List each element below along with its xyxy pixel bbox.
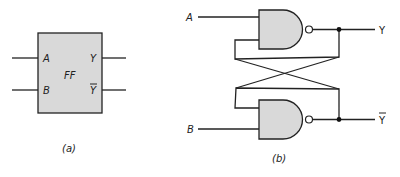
- caption-b: (b): [272, 153, 286, 164]
- nand-gate-bottom: [259, 100, 303, 139]
- output-ybar-label: Y: [90, 85, 97, 96]
- ff-label: FF: [64, 70, 76, 81]
- cross-wire-1: [235, 59, 339, 89]
- inversion-bubble-top: [306, 26, 313, 33]
- input-b-label: B: [43, 85, 50, 96]
- input-b-label-b: B: [187, 124, 194, 135]
- junction-dot-bottom: [337, 117, 342, 122]
- output-ybar-label-b: Y: [378, 115, 386, 126]
- cross-wire-2: [236, 57, 339, 88]
- caption-a: (a): [62, 143, 76, 154]
- input-a-label: A: [42, 53, 50, 64]
- nand-gate-top: [259, 10, 303, 49]
- junction-dot-top: [337, 27, 342, 32]
- output-y-label: Y: [90, 53, 97, 64]
- output-y-label-b: Y: [378, 25, 386, 36]
- input-a-label-b: A: [185, 12, 193, 23]
- figure-b: A B Y Y (b): [185, 10, 386, 164]
- inversion-bubble-bottom: [306, 116, 313, 123]
- figure-a: A B FF Y Y (a): [12, 33, 126, 154]
- flip-flop-figure: A B FF Y Y (a) A B Y Y: [0, 0, 400, 177]
